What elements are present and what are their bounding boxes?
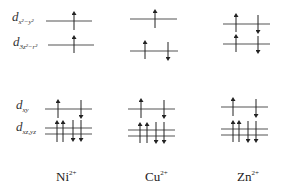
energy-levels: [0, 0, 282, 192]
ion-label-cu: Cu2+: [145, 170, 168, 183]
ion-label-ni: Ni2+: [56, 170, 76, 183]
ion-label-zn: Zn2+: [237, 170, 259, 183]
d-orbital-diagram: dx²−y² d3z²−r² dxy dxz,yz: [0, 0, 282, 192]
